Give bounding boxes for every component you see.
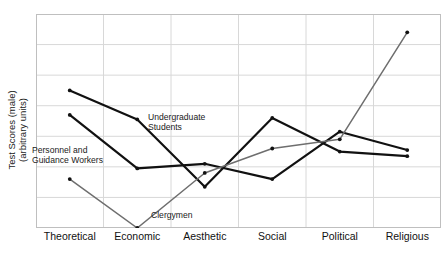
data-point (68, 89, 72, 93)
data-point (270, 177, 274, 181)
data-point (405, 148, 409, 152)
x-axis-tick-religious: Religious (362, 230, 445, 242)
data-point (203, 162, 207, 166)
data-point (338, 150, 342, 154)
y-axis-label-line1: Test Scores (male) (6, 90, 17, 169)
plot-area (36, 14, 441, 228)
data-point (203, 185, 207, 189)
data-point (270, 147, 274, 151)
data-point (270, 116, 274, 120)
data-point (338, 130, 342, 134)
data-point (135, 118, 139, 122)
y-axis-label: Test Scores (male) (arbitrary units) (0, 60, 34, 200)
line-chart: Test Scores (male) (arbitrary units) The… (0, 0, 445, 258)
x-axis-tick-labels: TheoreticalEconomicAestheticSocialPoliti… (36, 230, 441, 250)
data-point (68, 113, 72, 117)
annotation-personnel-guidance-workers: Personnel and Guidance Workers (32, 146, 103, 165)
data-point (203, 171, 207, 175)
data-point (135, 166, 139, 170)
annotation-personnel-line2: Guidance Workers (32, 156, 103, 166)
annotation-undergraduate-students: Undergraduate Students (148, 113, 205, 132)
annotation-undergraduate-line2: Students (148, 123, 205, 133)
data-point (338, 137, 342, 141)
y-axis-label-line2: (arbitrary units) (17, 90, 28, 169)
data-point (68, 177, 72, 181)
plot-svg (36, 14, 441, 228)
data-point (405, 154, 409, 158)
annotation-clergymen: Clergymen (151, 211, 193, 221)
annotation-clergymen-line1: Clergymen (151, 211, 193, 221)
data-point (405, 30, 409, 34)
